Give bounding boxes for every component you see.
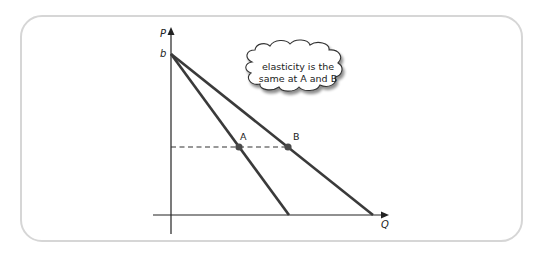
point-b-label: B (293, 131, 300, 142)
callout-line-1: elasticity is the (252, 61, 344, 73)
point-b-marker (284, 143, 291, 150)
point-a-marker (235, 143, 242, 150)
y-axis-label: P (160, 28, 167, 39)
x-axis-arrow-icon (381, 212, 389, 219)
x-axis-label: Q (381, 219, 389, 230)
callout-text: elasticity is the same at A and B (252, 61, 344, 85)
point-a-label: A (240, 131, 247, 142)
y-axis-arrow-icon (168, 27, 175, 35)
callout-line-2: same at A and B (252, 73, 344, 85)
x-axis (153, 212, 389, 219)
demand-diagram: P Q b A B (0, 0, 542, 256)
intercept-label: b (160, 48, 166, 59)
